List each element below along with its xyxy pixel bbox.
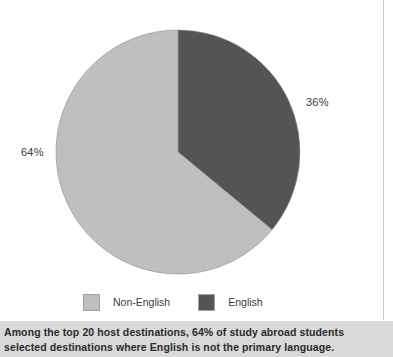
- pie-value-label-non-english: 64%: [21, 146, 44, 158]
- legend-label-english: English: [228, 296, 262, 308]
- pie-value-label-english: 36%: [306, 96, 329, 108]
- pie-chart-figure: 36% 64% Non-English English Among the to…: [0, 0, 393, 357]
- frame-right-divider: [383, 0, 384, 320]
- chart-plot-area: 36% 64% Non-English English: [0, 0, 383, 320]
- legend-swatch-english-icon: [198, 294, 215, 311]
- legend-swatch-non-english-icon: [83, 294, 100, 311]
- legend-item-english[interactable]: English: [198, 294, 262, 311]
- chart-caption: Among the top 20 host destinations, 64% …: [0, 321, 393, 357]
- legend-label-non-english: Non-English: [113, 296, 170, 308]
- pie-svg: [55, 29, 301, 275]
- caption-line-1: Among the top 20 host destinations, 64% …: [4, 325, 385, 340]
- legend-item-non-english[interactable]: Non-English: [83, 294, 170, 311]
- chart-legend: Non-English English: [83, 292, 343, 312]
- pie-graphic: [55, 29, 301, 275]
- caption-line-2: selected destinations where English is n…: [4, 340, 385, 355]
